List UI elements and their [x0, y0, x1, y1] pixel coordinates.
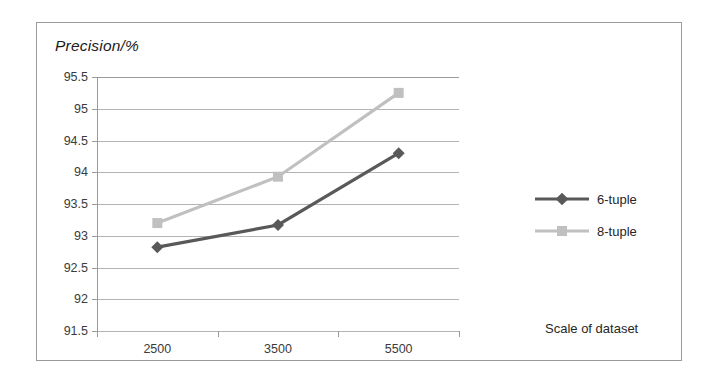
data-point-6-tuple-2500 [151, 241, 163, 253]
data-point-8-tuple-2500 [152, 218, 162, 228]
data-point-8-tuple-3500 [273, 172, 283, 182]
gridline [97, 331, 459, 332]
series-line-8-tuple [157, 93, 398, 223]
x-axis-tick-label: 2500 [143, 342, 171, 356]
plot-area: 95.59594.59493.59392.59291.5 25003500550… [97, 77, 459, 331]
square-marker-icon [557, 226, 567, 236]
legend-item-6-tuple[interactable]: 6-tuple [535, 183, 685, 215]
y-axis-tick-label: 93.5 [64, 197, 88, 211]
chart-frame: Precision/% 95.59594.59493.59392.59291.5… [36, 22, 682, 361]
legend-swatch-6-tuple [535, 192, 589, 206]
y-axis-title: Precision/% [55, 37, 139, 55]
x-axis-tick [338, 331, 339, 337]
y-axis-tick-label: 91.5 [64, 324, 88, 338]
y-axis-tick-label: 94.5 [64, 134, 88, 148]
chart-legend: 6-tuple 8-tuple [535, 183, 685, 247]
x-axis-tick [459, 331, 460, 337]
legend-swatch-8-tuple [535, 224, 589, 238]
series-line-6-tuple [157, 153, 398, 247]
series-lines [97, 77, 459, 331]
x-axis-tick-label: 5500 [385, 342, 413, 356]
y-axis-tick-label: 95.5 [64, 70, 88, 84]
y-axis-tick-label: 92 [74, 292, 88, 306]
legend-label-8-tuple: 8-tuple [597, 224, 637, 239]
diamond-marker-icon [556, 193, 569, 206]
x-axis-tick [218, 331, 219, 337]
x-axis-title: Scale of dataset [545, 321, 638, 336]
legend-label-6-tuple: 6-tuple [597, 192, 637, 207]
y-axis-tick-label: 95 [74, 102, 88, 116]
y-axis-tick-label: 93 [74, 229, 88, 243]
y-axis-tick-label: 92.5 [64, 261, 88, 275]
data-point-8-tuple-5500 [394, 88, 404, 98]
x-axis-tick-label: 3500 [264, 342, 292, 356]
x-axis-tick [97, 331, 98, 337]
y-axis-tick-label: 94 [74, 165, 88, 179]
legend-item-8-tuple[interactable]: 8-tuple [535, 215, 685, 247]
